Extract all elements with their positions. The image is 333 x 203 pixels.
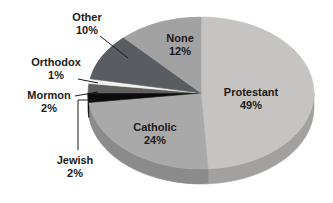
slice-percent: 1%: [31, 69, 81, 82]
slice-label-other: Other 10%: [72, 11, 101, 37]
pie-chart: Other 10% Orthodox 1% Mormon 2% Jewish 2…: [0, 0, 333, 203]
slice-name: Orthodox: [31, 56, 81, 69]
slice-label-jewish: Jewish 2%: [57, 154, 94, 180]
pie-slices-group: [88, 17, 314, 184]
slice-percent: 12%: [166, 45, 194, 58]
slice-percent: 2%: [27, 102, 70, 115]
slice-label-catholic: Catholic 24%: [133, 121, 176, 147]
slice-label-orthodox: Orthodox 1%: [31, 56, 81, 82]
slice-percent: 49%: [224, 99, 278, 112]
slice-name: Protestant: [224, 86, 278, 99]
slice-name: None: [166, 32, 194, 45]
slice-label-mormon: Mormon 2%: [27, 89, 70, 115]
slice-percent: 24%: [133, 134, 176, 147]
slice-percent: 2%: [57, 167, 94, 180]
slice-name: Other: [72, 11, 101, 24]
slice-name: Jewish: [57, 154, 94, 167]
slice-name: Mormon: [27, 89, 70, 102]
slice-label-none: None 12%: [166, 32, 194, 58]
slice-name: Catholic: [133, 121, 176, 134]
slice-percent: 10%: [72, 24, 101, 37]
slice-label-protestant: Protestant 49%: [224, 86, 278, 112]
